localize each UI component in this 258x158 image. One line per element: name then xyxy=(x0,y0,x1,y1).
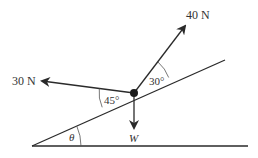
angle-45-arc xyxy=(99,89,102,108)
weight-label: W xyxy=(129,132,139,144)
theta-arc xyxy=(77,126,81,146)
force-diagram-svg: θ 40 N 30° 30 N 45° W xyxy=(0,0,258,158)
force-40-label: 40 N xyxy=(186,8,210,22)
theta-label: θ xyxy=(69,131,75,143)
force-diagram: θ 40 N 30° 30 N 45° W xyxy=(0,0,258,158)
force-30-label: 30 N xyxy=(12,74,36,88)
particle-dot xyxy=(130,89,138,97)
angle-45-label: 45° xyxy=(104,94,119,106)
angle-30-label: 30° xyxy=(149,75,164,87)
force-30-arrow xyxy=(42,81,134,93)
